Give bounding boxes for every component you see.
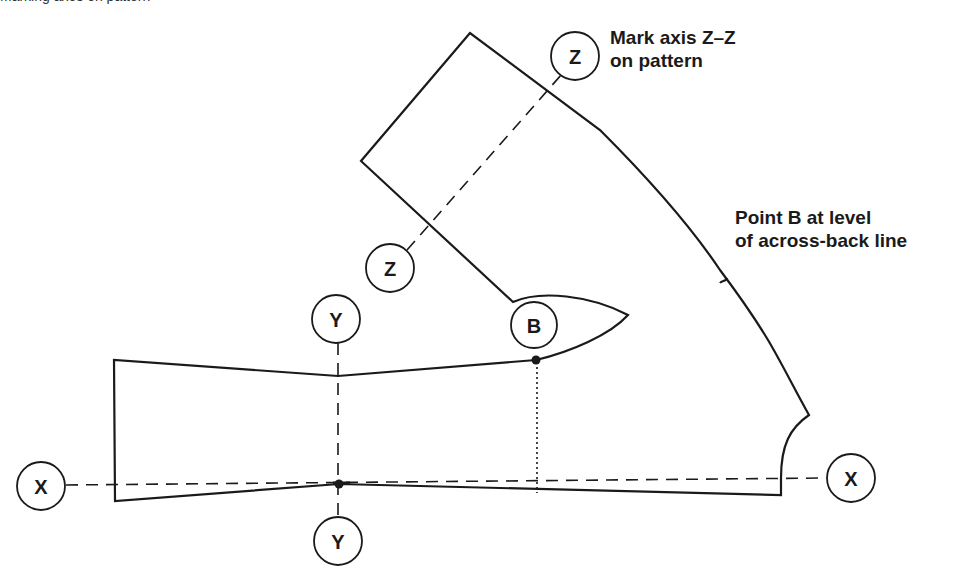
annotation-axis-z-line1: Mark axis Z–Z <box>610 26 736 49</box>
axis-x-line <box>66 478 826 485</box>
marker-y-bottom-label: Y <box>331 531 345 553</box>
annotation-point-b-line2: of across-back line <box>735 229 907 252</box>
marker-b-label: B <box>527 315 541 337</box>
marker-x-right-label: X <box>844 468 858 490</box>
annotation-point-b: Point B at level of across-back line <box>735 206 907 252</box>
annotation-axis-z-line2: on pattern <box>610 49 736 72</box>
pattern-outline <box>114 33 809 501</box>
marker-z-top-label: Z <box>569 46 581 68</box>
axis-z-line <box>407 74 562 250</box>
marker-y-top-label: Y <box>329 309 343 331</box>
point-b-dot <box>532 356 541 365</box>
marker-z-bottom-label: Z <box>384 258 396 280</box>
annotation-point-b-line1: Point B at level <box>735 206 907 229</box>
pattern-diagram: Z Z Y Y B X X <box>0 0 966 580</box>
notch-tick <box>720 278 727 283</box>
marker-x-left-label: X <box>34 476 48 498</box>
annotation-axis-z: Mark axis Z–Z on pattern <box>610 26 736 72</box>
